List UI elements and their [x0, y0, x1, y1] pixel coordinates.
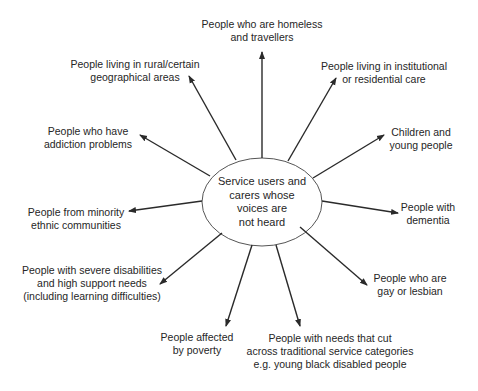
node-dementia: People with dementia — [401, 201, 455, 227]
node-cross-cutting: People with needs that cut across tradit… — [247, 332, 414, 371]
center-line-1: Service users and — [218, 175, 306, 189]
node-homeless: People who are homeless and travellers — [202, 18, 323, 44]
node-addiction: People who have addiction problems — [44, 125, 132, 151]
arrow-cross-cutting — [276, 245, 300, 326]
node-line: People who have — [44, 125, 132, 138]
node-line: People with — [401, 201, 455, 214]
node-line: People living in institutional — [321, 60, 447, 73]
node-line: by poverty — [161, 344, 234, 357]
arrow-addiction — [140, 135, 210, 176]
center-line-4: not heard — [218, 216, 306, 230]
node-line: and high support needs — [22, 277, 162, 290]
node-rural: People living in rural/certain geographi… — [71, 58, 200, 84]
node-minority: People from minority ethnic communities — [28, 206, 124, 232]
arrow-children — [313, 135, 384, 178]
node-line: People with severe disabilities — [22, 264, 162, 277]
node-line: or residential care — [321, 73, 447, 86]
node-line: geographical areas — [71, 71, 200, 84]
arrow-poverty — [226, 245, 252, 326]
node-institutional: People living in institutional or reside… — [321, 60, 447, 86]
node-line: young people — [389, 139, 452, 152]
node-line: People affected — [161, 331, 234, 344]
node-poverty: People affected by poverty — [161, 331, 234, 357]
node-line: dementia — [401, 214, 455, 227]
node-line: People who are homeless — [202, 18, 323, 31]
arrow-institutional — [288, 78, 336, 161]
node-children: Children and young people — [389, 126, 452, 152]
center-line-3: voices are — [218, 202, 306, 216]
diagram-canvas: Service users and carers whose voices ar… — [0, 0, 478, 391]
node-disabilities: People with severe disabilities and high… — [22, 264, 162, 303]
node-line: across traditional service categories — [247, 345, 414, 358]
node-line: People living in rural/certain — [71, 58, 200, 71]
center-label: Service users and carers whose voices ar… — [218, 175, 306, 229]
node-line: and travellers — [202, 31, 323, 44]
node-line: addiction problems — [44, 138, 132, 151]
node-line: Children and — [389, 126, 452, 139]
arrow-disabilities — [160, 233, 222, 284]
arrow-dementia — [322, 201, 398, 213]
node-line: ethnic communities — [28, 219, 124, 232]
center-line-2: carers whose — [218, 189, 306, 203]
arrow-minority — [129, 201, 202, 211]
node-line: People from minority — [28, 206, 124, 219]
arrow-gay — [300, 227, 367, 285]
node-line: e.g. young black disabled people — [247, 358, 414, 371]
arrow-rural — [189, 76, 236, 160]
node-line: (including learning difficulties) — [22, 290, 162, 303]
node-gay: People who are gay or lesbian — [374, 272, 447, 298]
node-line: People who are — [374, 272, 447, 285]
node-line: gay or lesbian — [374, 285, 447, 298]
node-line: People with needs that cut — [247, 332, 414, 345]
